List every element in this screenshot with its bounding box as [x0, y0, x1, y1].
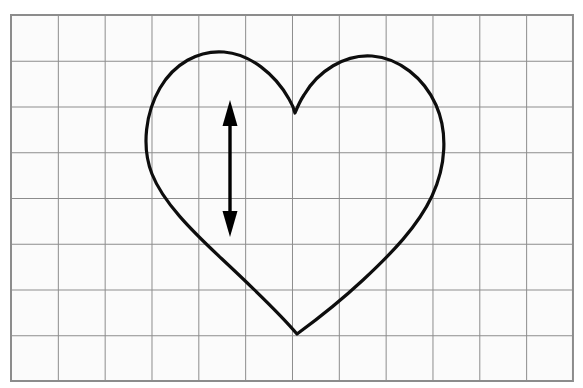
heart-grid-illustration — [0, 0, 583, 388]
figure-canvas — [0, 0, 583, 388]
